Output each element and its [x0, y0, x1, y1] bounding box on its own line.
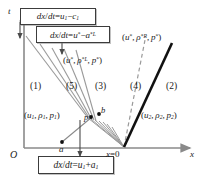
callout-star-left-text: dx/dt=u*−a*L	[50, 30, 96, 40]
fan-tail-lines	[88, 118, 124, 147]
contact-discontinuity	[124, 40, 145, 147]
region-label-3: (3)	[95, 82, 106, 92]
callout-left-characteristic-text: dx/dt=u1−c1	[37, 11, 79, 21]
point-a-label: a	[59, 145, 64, 154]
figure-canvas: dx/dt=u1−c1 dx/dt=u*−a*L dx/dt=u1+a1 t x…	[0, 0, 201, 179]
region-label-1: (1)	[30, 82, 41, 92]
shock-wave	[124, 43, 172, 147]
callout-right-characteristic-text: dx/dt=u1+a1	[53, 160, 98, 170]
region-label-4: (4)	[130, 82, 141, 92]
point-p-label: p	[84, 113, 88, 122]
state-label-star-left: (u*, ρ*L, p*)	[63, 56, 102, 65]
callout-right-characteristic-speed: dx/dt=u1+a1	[38, 156, 114, 174]
region-label-2: (2)	[166, 82, 177, 92]
callout-left-characteristic-speed: dx/dt=u1−c1	[20, 8, 96, 25]
x-zero-tick-label: x=0	[106, 150, 120, 159]
axis-origin-label: O	[10, 150, 17, 160]
region-label-5: (5)	[66, 82, 77, 92]
rarefaction-fan	[26, 36, 96, 121]
state-label-star-right: (u*, ρ*R, p*)	[122, 33, 161, 42]
point-p-marker	[89, 115, 93, 119]
point-b-label: b	[101, 106, 105, 115]
callout-star-left-speed: dx/dt=u*−a*L	[36, 26, 110, 43]
state-label-right: (u2, ρ2, p2)	[141, 111, 177, 121]
state-label-left: (u1, ρ1, p1)	[24, 111, 60, 121]
axis-label-x: x	[190, 150, 194, 159]
axis-label-t: t	[8, 7, 11, 16]
